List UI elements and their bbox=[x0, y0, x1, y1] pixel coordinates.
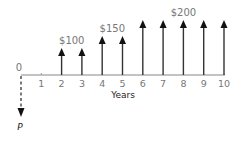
origin-label: 0 bbox=[16, 62, 22, 73]
cash-flow-diagram: 12345678910 $100$150$200 0 P Years bbox=[0, 0, 244, 141]
tick-label-2: 2 bbox=[59, 78, 65, 89]
up-arrowhead-icon bbox=[78, 48, 85, 56]
cash-flow-arrow-year-3 bbox=[78, 48, 85, 75]
up-arrowhead-icon bbox=[160, 20, 167, 28]
up-arrowhead-icon bbox=[200, 20, 207, 28]
tick-label-9: 9 bbox=[201, 78, 207, 89]
tick-label-4: 4 bbox=[99, 78, 105, 89]
up-arrowhead-icon bbox=[180, 20, 187, 28]
tick-label-1: 1 bbox=[38, 78, 44, 89]
present-value-label: P bbox=[17, 122, 23, 132]
up-arrowhead-icon bbox=[99, 36, 106, 44]
tick-label-8: 8 bbox=[180, 78, 186, 89]
tick-label-10: 10 bbox=[218, 78, 230, 89]
up-arrowhead-icon bbox=[139, 20, 146, 28]
tick-label-7: 7 bbox=[160, 78, 166, 89]
cash-flow-arrows bbox=[58, 20, 227, 75]
origin-group: 0 P bbox=[16, 62, 25, 132]
up-arrowhead-icon bbox=[119, 36, 126, 44]
down-arrowhead-icon bbox=[18, 108, 25, 117]
group-labels: $100$150$200 bbox=[59, 7, 196, 46]
amount-label: $200 bbox=[171, 7, 196, 18]
tick-label-5: 5 bbox=[119, 78, 125, 89]
cash-flow-arrow-year-10 bbox=[221, 20, 228, 75]
amount-label: $150 bbox=[100, 23, 125, 34]
cash-flow-arrow-year-2 bbox=[58, 48, 65, 75]
up-arrowhead-icon bbox=[221, 20, 228, 28]
cash-flow-arrow-year-5 bbox=[119, 36, 126, 75]
tick-label-6: 6 bbox=[140, 78, 146, 89]
axis-label: Years bbox=[110, 90, 135, 100]
up-arrowhead-icon bbox=[58, 48, 65, 56]
tick-label-3: 3 bbox=[79, 78, 85, 89]
cash-flow-arrow-year-7 bbox=[160, 20, 167, 75]
amount-label: $100 bbox=[59, 35, 84, 46]
cash-flow-arrow-year-9 bbox=[200, 20, 207, 75]
cash-flow-arrow-year-6 bbox=[139, 20, 146, 75]
cash-flow-arrow-year-4 bbox=[99, 36, 106, 75]
cash-flow-arrow-year-8 bbox=[180, 20, 187, 75]
